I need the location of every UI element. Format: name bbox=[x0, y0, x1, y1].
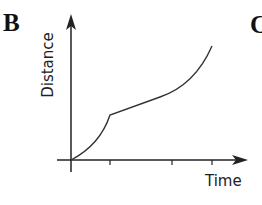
distance-curve bbox=[71, 46, 212, 160]
distance-time-graph bbox=[0, 0, 262, 205]
